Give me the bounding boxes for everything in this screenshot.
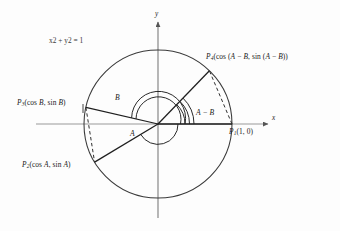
angle-label-b: B [115,93,120,102]
unit-circle-figure: x2 + y2 = 1 y x P4(cos (A − B, sin (A − … [0,0,340,231]
point-label-p1: P1(1, 0) [229,128,253,137]
point-label-p4: P4(cos (A − B, sin (A − B)) [206,53,288,62]
radius-to-p3 [86,107,158,124]
x-axis-label: x [272,114,275,122]
point-label-p2: P2(cos A, sin A) [22,161,71,170]
point-label-p3: P3(cos B, sin B) [17,99,66,108]
diagram-canvas [0,0,340,231]
angle-label-a: A [130,129,135,138]
angle-arc-a [141,124,178,144]
angle-label-a-minus-b: A − B [196,108,214,117]
radius-to-p2 [95,124,158,162]
y-axis-label: y [155,10,158,18]
circle-equation: x2 + y2 = 1 [49,36,83,45]
